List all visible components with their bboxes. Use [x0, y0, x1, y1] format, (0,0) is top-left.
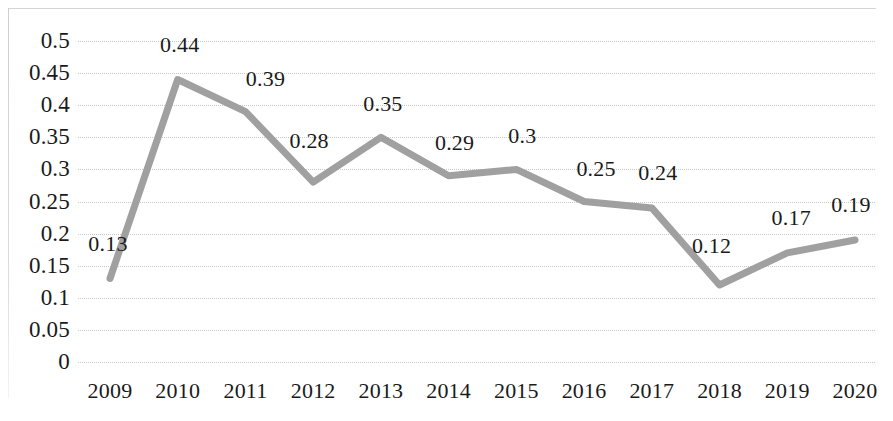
data-point-label: 0.3 [508, 123, 536, 149]
x-axis-tick-label: 2010 [155, 378, 200, 404]
data-point-label: 0.25 [576, 156, 615, 182]
x-axis-tick-label: 2014 [426, 378, 471, 404]
x-axis-tick-label: 2011 [223, 378, 267, 404]
series-line [110, 80, 855, 286]
line-chart: 00.050.10.150.20.250.30.350.40.450.5 200… [0, 0, 893, 421]
x-axis-tick-label: 2016 [562, 378, 607, 404]
x-axis-tick-label: 2018 [697, 378, 742, 404]
x-axis-tick-label: 2015 [494, 378, 539, 404]
data-point-label: 0.44 [160, 32, 199, 58]
data-point-label: 0.28 [290, 128, 329, 154]
x-axis-tick-label: 2013 [359, 378, 404, 404]
x-axis-tick-label: 2012 [291, 378, 336, 404]
plot-area [0, 0, 893, 421]
data-point-label: 0.19 [831, 192, 870, 218]
x-axis-tick-label: 2019 [765, 378, 810, 404]
data-point-label: 0.39 [246, 66, 285, 92]
x-axis-tick-label: 2017 [629, 378, 674, 404]
data-point-label: 0.24 [638, 160, 677, 186]
data-point-label: 0.13 [88, 231, 127, 257]
data-point-label: 0.29 [435, 130, 474, 156]
data-point-label: 0.35 [363, 91, 402, 117]
x-axis-tick-label: 2009 [88, 378, 133, 404]
data-point-label: 0.12 [692, 233, 731, 259]
x-axis-tick-label: 2020 [833, 378, 878, 404]
data-point-label: 0.17 [772, 205, 811, 231]
